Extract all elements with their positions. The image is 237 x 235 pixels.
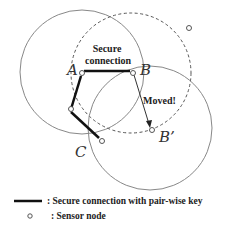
annotation-connection: connection <box>85 55 132 66</box>
arrowhead-icon <box>146 120 152 128</box>
sensor-node-A <box>80 71 85 76</box>
sensor-node-Bprime <box>150 128 155 133</box>
legend: : Secure connection with pair-wise key :… <box>14 196 203 221</box>
sensor-node-B <box>131 71 136 76</box>
legend-sensor-node-icon <box>28 214 32 218</box>
sensor-node-C <box>100 139 105 144</box>
legend-secure-connection: : Secure connection with pair-wise key <box>47 196 203 206</box>
network-diagram: A B C B’ Secure connection Moved! : Secu… <box>0 0 237 235</box>
legend-sensor-node: : Sensor node <box>51 211 106 221</box>
label-A: A <box>65 61 78 79</box>
sensor-node-isolated <box>187 26 192 31</box>
sensor-node-mid <box>69 107 74 112</box>
label-Bprime: B’ <box>158 128 175 146</box>
annotation-moved: Moved! <box>143 95 176 106</box>
annotation-secure: Secure <box>93 43 122 54</box>
label-B: B <box>139 61 151 79</box>
label-C: C <box>75 143 87 161</box>
